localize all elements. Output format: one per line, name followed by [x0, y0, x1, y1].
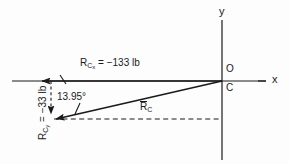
rcy-label: RCy = −33 lb	[38, 86, 50, 140]
rcy-subsubscript: y	[44, 125, 50, 128]
angle-leader-lower	[75, 103, 80, 114]
figure-canvas: y x O C RCx = −133 lb RCy = −33 lb RC 13…	[0, 0, 289, 164]
y-axis-label: y	[219, 6, 225, 17]
x-axis-label: x	[272, 74, 278, 85]
angle-leader-upper	[60, 75, 66, 84]
rcx-label: RCx = −133 lb	[80, 58, 140, 70]
rcy-subscript: C	[42, 128, 49, 133]
angle-label: 13.95°	[57, 92, 86, 102]
rcx-value: = −133 lb	[95, 57, 139, 68]
rcy-symbol: R	[37, 133, 48, 140]
rcy-value: = −33 lb	[37, 86, 48, 125]
point-label-c: C	[226, 83, 233, 93]
rc-subscript: C	[147, 106, 152, 113]
origin-label-o: O	[226, 64, 234, 74]
rc-label: RC	[140, 101, 152, 113]
